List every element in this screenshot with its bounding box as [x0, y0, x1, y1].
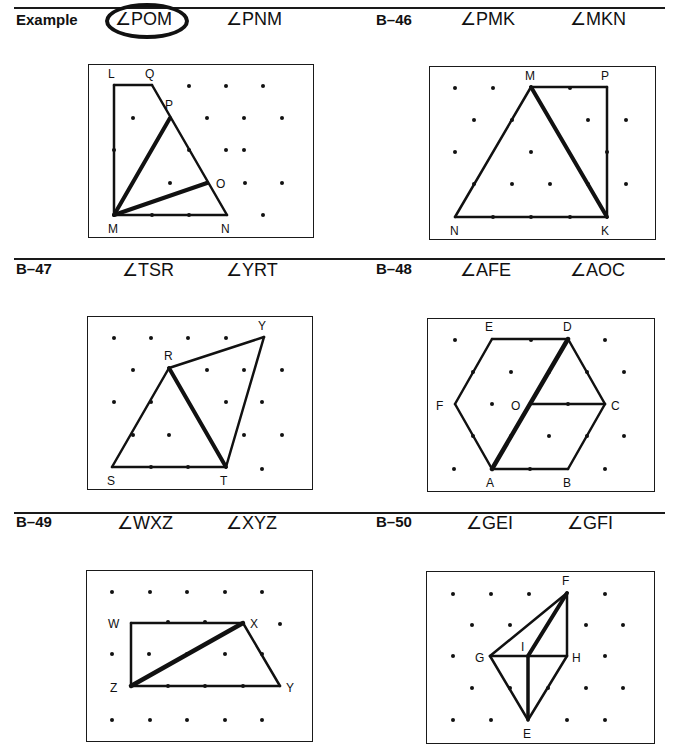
vertex-label: D	[563, 320, 572, 334]
figure-B-47: RYST	[107, 319, 284, 488]
grid-dot	[205, 116, 209, 120]
grid-dot	[278, 622, 282, 626]
segment	[455, 339, 492, 404]
vertex-label: M	[108, 222, 118, 236]
grid-dot	[472, 118, 476, 122]
grid-dot	[223, 652, 227, 656]
grid-dot	[491, 86, 495, 90]
segment	[226, 337, 264, 467]
grid-dot	[584, 686, 588, 690]
segment	[169, 368, 226, 467]
grid-dot	[586, 118, 590, 122]
grid-dot	[224, 336, 228, 340]
vertex-label: R	[164, 349, 173, 363]
figure-B-48: EDFOCAB	[436, 320, 626, 490]
grid-dot	[603, 718, 607, 722]
grid-dot	[603, 467, 607, 471]
grid-dot	[529, 150, 533, 154]
grid-dot	[131, 368, 135, 372]
grid-dot	[112, 336, 116, 340]
segment	[568, 339, 605, 404]
grid-dot	[112, 400, 116, 404]
grid-dot	[547, 434, 551, 438]
grid-dot	[260, 400, 264, 404]
grid-dot	[223, 718, 227, 722]
grid-dot	[224, 400, 228, 404]
vertex-label: G	[475, 651, 484, 665]
grid-dot	[451, 592, 455, 596]
grid-dot	[603, 654, 607, 658]
grid-dot	[185, 590, 189, 594]
grid-dot	[622, 434, 626, 438]
vertex-label: P	[601, 69, 609, 83]
grid-dot	[451, 654, 455, 658]
grid-dot	[242, 148, 246, 152]
grid-dot	[509, 370, 513, 374]
segment	[528, 593, 567, 656]
grid-dot	[242, 433, 246, 437]
vertex-label: N	[450, 224, 459, 238]
grid-dot	[603, 592, 607, 596]
grid-dot	[621, 686, 625, 690]
vertex-label: O	[511, 399, 520, 413]
grid-dot	[280, 181, 284, 185]
grid-dot	[242, 116, 246, 120]
vertex-label: X	[250, 617, 258, 631]
vertex-label: Z	[110, 681, 117, 695]
segment	[531, 87, 607, 217]
vertex-label: I	[521, 640, 524, 654]
grid-dot	[186, 336, 190, 340]
vertex-label: T	[220, 474, 228, 488]
grid-dot	[110, 652, 114, 656]
grid-dot	[168, 181, 172, 185]
grid-dot	[624, 118, 628, 122]
vertex-label: E	[485, 320, 493, 334]
grid-dot	[131, 116, 135, 120]
grid-dot	[510, 182, 514, 186]
grid-dot	[243, 181, 247, 185]
figure-example: LQPOMN	[108, 67, 284, 236]
grid-dot	[548, 182, 552, 186]
grid-dot	[453, 338, 457, 342]
vertex-label: S	[107, 474, 115, 488]
grid-dot	[489, 718, 493, 722]
vertex-label: Q	[145, 67, 154, 81]
grid-dot	[260, 467, 264, 471]
vertex-label: M	[525, 69, 535, 83]
grid-dot	[185, 718, 189, 722]
vertex-label: F	[436, 399, 443, 413]
vertex-label: E	[523, 727, 531, 741]
figure-B-46: MPNK	[450, 69, 628, 238]
vertex-label: C	[611, 399, 620, 413]
vertex-label: A	[486, 476, 494, 490]
grid-dot	[224, 84, 228, 88]
vertex-label: O	[216, 177, 225, 191]
grid-dot	[470, 686, 474, 690]
vertex-label: P	[165, 98, 173, 112]
grid-dot	[205, 368, 209, 372]
grid-dot	[280, 116, 284, 120]
grid-dot	[242, 368, 246, 372]
grid-dot	[470, 623, 474, 627]
grid-dot	[453, 86, 457, 90]
grid-dot	[603, 338, 607, 342]
grid-dot	[149, 336, 153, 340]
segment	[528, 656, 567, 720]
segment	[490, 593, 567, 656]
grid-dot	[110, 718, 114, 722]
grid-dot	[584, 623, 588, 627]
grid-dot	[167, 433, 171, 437]
segment	[568, 404, 605, 469]
vertex-label: Y	[258, 319, 266, 333]
vertex-label: L	[108, 67, 115, 81]
grid-dot	[147, 652, 151, 656]
segment	[112, 368, 169, 467]
vertex-label: H	[572, 651, 581, 665]
figure-B-50: FIGHE	[451, 574, 625, 741]
grid-dot	[622, 370, 626, 374]
grid-dot	[187, 84, 191, 88]
grid-dot	[451, 718, 455, 722]
grid-dot	[280, 368, 284, 372]
grid-dot	[453, 150, 457, 154]
vertex-label: N	[221, 222, 230, 236]
